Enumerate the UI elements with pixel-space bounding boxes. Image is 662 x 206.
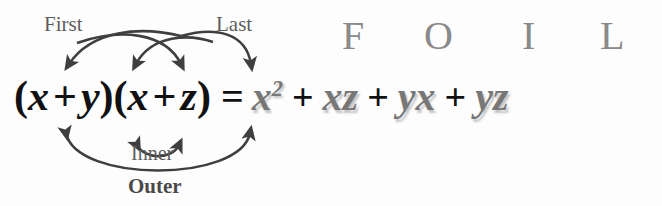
plus-operator-3: +: [283, 75, 323, 119]
product-term-outer: xz: [323, 73, 359, 120]
first-arc-left-path: [69, 31, 181, 64]
product-term-first: x2: [252, 73, 283, 120]
product-term-inner: yx: [398, 73, 436, 120]
close-paren-1: ): [100, 73, 114, 119]
variable-x-1: x: [28, 73, 49, 119]
product-term-last: yz: [475, 73, 508, 120]
foil-letter-f: F: [342, 16, 364, 56]
close-paren-2: ): [197, 73, 211, 119]
plus-operator-1: +: [49, 73, 81, 119]
plus-operator-2: +: [149, 73, 181, 119]
variable-x-2: x: [128, 73, 149, 119]
equals-sign: =: [211, 73, 252, 120]
foil-letter-o: O: [424, 16, 453, 56]
foil-acronym-row: F O I L: [336, 16, 652, 62]
last-arc-left-path: [136, 37, 213, 64]
foil-diagram: First Last Inner Outer F O I L (x+y)(x+z…: [0, 0, 662, 206]
plus-operator-4: +: [358, 75, 398, 119]
variable-z: z: [181, 73, 197, 119]
equation-right-side: x2 + xz + yx + yz: [252, 73, 509, 120]
label-outer: Outer: [128, 176, 182, 197]
foil-letter-l: L: [600, 16, 624, 56]
equation-left-side: (x+y)(x+z): [14, 72, 211, 120]
label-first: First: [44, 14, 83, 35]
foil-letter-i: I: [522, 16, 535, 56]
product-term-first-exponent: 2: [272, 76, 283, 101]
open-paren-2: (: [114, 73, 128, 119]
equation: (x+y)(x+z) = x2 + xz + yx + yz: [14, 72, 509, 120]
label-inner: Inner: [131, 143, 173, 163]
variable-y: y: [81, 73, 100, 119]
open-paren-1: (: [14, 73, 28, 119]
product-term-first-base: x: [252, 74, 272, 119]
plus-operator-5: +: [436, 75, 476, 119]
label-last: Last: [216, 14, 252, 35]
